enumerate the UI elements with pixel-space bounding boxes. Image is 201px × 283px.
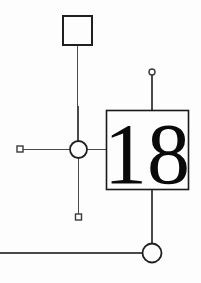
top-circle-terminal[interactable] <box>149 69 155 75</box>
bottom-circle[interactable] <box>143 244 162 263</box>
bottom-square-terminal[interactable] <box>76 214 82 220</box>
schematic-diagram: 18 <box>0 0 201 283</box>
left-square-terminal[interactable] <box>17 146 23 152</box>
junction-circle[interactable] <box>70 141 87 158</box>
diagram-canvas: 18 <box>0 0 201 283</box>
edge-top-square-to-junction <box>78 45 79 141</box>
main-node[interactable]: 18 <box>104 106 190 202</box>
top-square-node[interactable] <box>63 16 92 45</box>
main-node-label: 18 <box>104 106 190 202</box>
